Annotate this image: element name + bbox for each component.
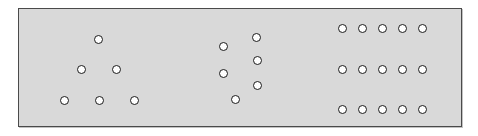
circle-marker: [378, 105, 387, 114]
circle-marker: [358, 24, 367, 33]
circle-marker: [418, 65, 427, 74]
circle-marker: [378, 65, 387, 74]
circle-marker: [398, 65, 407, 74]
cluster-right-grid: [19, 9, 461, 126]
circle-marker: [418, 105, 427, 114]
circle-marker: [338, 65, 347, 74]
circle-marker: [338, 105, 347, 114]
diagram-panel: [18, 8, 462, 127]
circle-marker: [418, 24, 427, 33]
circle-marker: [358, 65, 367, 74]
circle-marker: [378, 24, 387, 33]
circle-marker: [358, 105, 367, 114]
circle-marker: [398, 24, 407, 33]
circle-marker: [338, 24, 347, 33]
figure-canvas: [0, 0, 478, 136]
circle-marker: [398, 105, 407, 114]
